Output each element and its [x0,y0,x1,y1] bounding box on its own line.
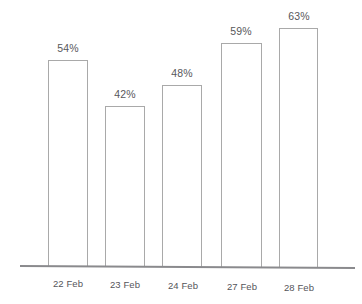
bar-27-feb [221,43,262,267]
bar-value-label-27-feb: 59% [211,25,271,37]
x-axis-label-22-feb: 22 Feb [38,278,98,289]
bar-23-feb [105,106,145,267]
x-axis-label-24-feb: 24 Feb [153,280,213,291]
bar-22-feb [48,60,88,267]
x-axis-label-27-feb: 27 Feb [212,281,272,292]
x-axis-label-23-feb: 23 Feb [95,279,155,290]
bar-24-feb [162,85,202,267]
bar-28-feb [279,28,318,267]
x-axis-label-28-feb: 28 Feb [269,282,329,293]
bar-value-label-28-feb: 63% [269,10,329,22]
plot-area: 54% 42% 48% 59% 63% 22 Feb 23 Feb 24 Feb… [0,0,362,304]
bar-chart: 54% 42% 48% 59% 63% 22 Feb 23 Feb 24 Feb… [0,0,362,304]
bar-value-label-23-feb: 42% [95,88,155,100]
bar-value-label-22-feb: 54% [38,42,98,54]
bar-value-label-24-feb: 48% [152,67,212,79]
